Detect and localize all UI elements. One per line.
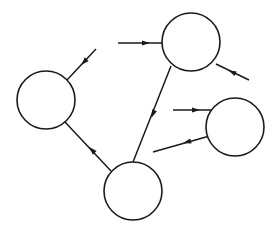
edge-bottom-left [65, 122, 111, 171]
edge-in-top-right-a [118, 40, 162, 45]
arrowhead-icon [192, 107, 200, 112]
edge-line [153, 135, 213, 152]
arrowhead-icon [228, 70, 236, 76]
node-right [206, 98, 264, 156]
arrowhead-icon [183, 138, 191, 143]
arrowhead-icon [152, 109, 157, 117]
edge-in-top-right-b [216, 64, 249, 80]
edge-top-right-bottom [133, 66, 171, 162]
node-left [17, 71, 75, 129]
nodes-layer [17, 13, 264, 220]
arrowhead-icon [142, 40, 150, 45]
edge-in-left [67, 49, 96, 80]
node-top-right [162, 13, 220, 71]
edge-line [65, 122, 111, 171]
node-bottom [104, 162, 162, 220]
edge-in-right [173, 107, 212, 112]
edge-right-bottom [153, 135, 213, 152]
directed-graph-diagram [0, 0, 276, 232]
